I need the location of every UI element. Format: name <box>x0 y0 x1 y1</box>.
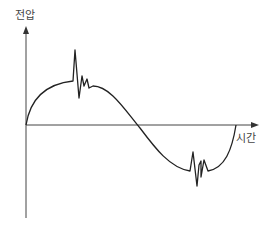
y-axis-label: 전압 <box>15 6 35 22</box>
waveform-diagram <box>0 0 269 231</box>
x-axis-label: 시간 <box>236 129 256 145</box>
voltage-waveform <box>26 50 236 186</box>
